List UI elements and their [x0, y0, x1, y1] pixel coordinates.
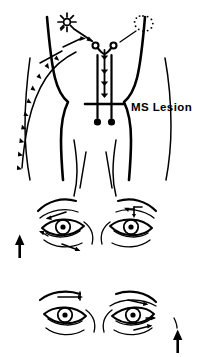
- lower-left-constriction-arrow: [58, 292, 83, 300]
- figure-canvas: MS Lesion: [0, 0, 212, 357]
- pathway-terminal-dots: [94, 118, 115, 125]
- lower-body-contours: [74, 140, 116, 196]
- afferent-input-arrows: [74, 29, 136, 42]
- lower-eye-pair: [40, 292, 156, 335]
- lower-panel-up-arrow-marker: [173, 330, 182, 354]
- ms-lesion-label: MS Lesion: [131, 101, 192, 113]
- upper-left-eye: [40, 210, 93, 247]
- upper-right-constriction-arrow: [124, 207, 142, 218]
- upper-eye-pair: [38, 199, 156, 251]
- torso-outline: [47, 17, 145, 180]
- lower-marker-tick: [174, 318, 177, 328]
- ms-lesion-pupil-diagram: [0, 0, 212, 357]
- upper-panel-up-arrow-marker: [15, 235, 24, 259]
- lower-left-brow: [40, 292, 80, 300]
- lower-left-eye: [44, 307, 95, 334]
- upper-right-eye: [101, 210, 154, 247]
